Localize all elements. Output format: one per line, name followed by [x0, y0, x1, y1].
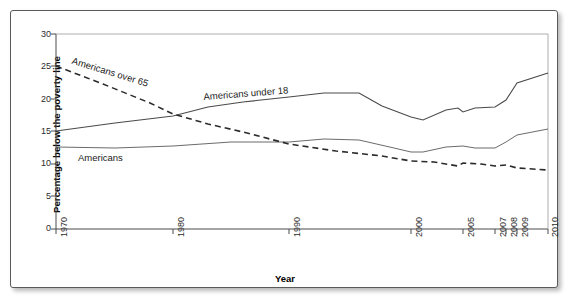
chart-frame: Percentage below the poverty line Year 3…	[10, 10, 558, 288]
figure-root: Percentage below the poverty line Year 3…	[0, 0, 571, 305]
axis-lines	[56, 34, 548, 229]
plot-area	[11, 11, 559, 289]
series-line-americans	[56, 129, 548, 152]
y-axis-ticks	[51, 34, 56, 229]
x-axis-ticks	[56, 229, 548, 234]
series-label-americans: Americans	[78, 152, 123, 163]
